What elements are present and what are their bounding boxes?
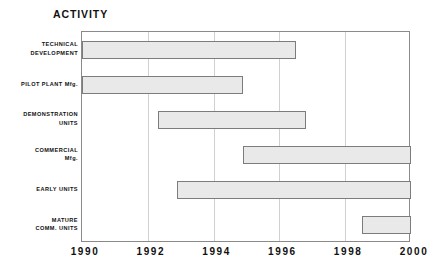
category-label: PILOT PLANT Mfg. — [2, 80, 78, 89]
x-tick-label: 1994 — [202, 246, 231, 257]
gridline-1994 — [214, 32, 215, 241]
gantt-bar — [82, 76, 243, 94]
category-label-line: Mfg. — [2, 154, 78, 163]
category-label-line: COMMERCIAL — [2, 146, 78, 155]
gridline-1998 — [345, 32, 346, 241]
x-tick-label: 2000 — [400, 246, 429, 257]
category-label-line: DEVELOPMENT — [2, 49, 78, 58]
category-label-line: COMM. UNITS — [2, 224, 78, 233]
x-tick-label: 1990 — [71, 246, 100, 257]
gridline-1992 — [148, 32, 149, 241]
category-label: MATURECOMM. UNITS — [2, 216, 78, 233]
category-label-line: PILOT PLANT Mfg. — [2, 80, 78, 89]
category-label: COMMERCIALMfg. — [2, 146, 78, 163]
category-label-line: MATURE — [2, 216, 78, 225]
x-tick-label: 1998 — [334, 246, 363, 257]
gridline-1996 — [279, 32, 280, 241]
x-axis-tick-labels: 199019921994199619982000 — [0, 246, 442, 264]
gantt-bar — [177, 181, 411, 199]
chart-title: ACTIVITY — [53, 8, 108, 20]
category-label: EARLY UNITS — [2, 185, 78, 194]
gantt-bar — [82, 41, 296, 59]
gantt-bar — [158, 111, 306, 129]
x-tick-label: 1996 — [268, 246, 297, 257]
category-axis-labels: TECHNICALDEVELOPMENTPILOT PLANT Mfg.DEMO… — [0, 31, 78, 242]
category-label-line: UNITS — [2, 119, 78, 128]
category-label: DEMONSTRATIONUNITS — [2, 110, 78, 127]
gantt-bar — [362, 216, 411, 234]
gantt-chart: ACTIVITY TECHNICALDEVELOPMENTPILOT PLANT… — [0, 0, 442, 278]
category-label: TECHNICALDEVELOPMENT — [2, 40, 78, 57]
plot-area — [81, 31, 410, 242]
category-label-line: EARLY UNITS — [2, 185, 78, 194]
category-label-line: TECHNICAL — [2, 40, 78, 49]
gantt-bar — [243, 146, 411, 164]
x-tick-label: 1992 — [136, 246, 165, 257]
category-label-line: DEMONSTRATION — [2, 110, 78, 119]
